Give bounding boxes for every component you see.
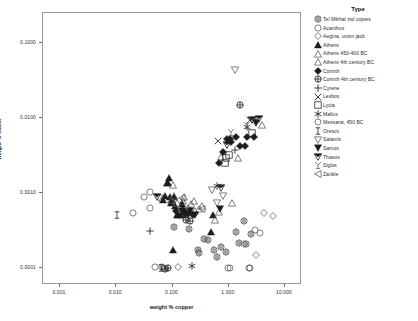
legend-marker-icon	[312, 101, 323, 110]
legend-item-label: Messana, 450 BC	[323, 118, 364, 127]
legend-item[interactable]: Acanthus	[312, 24, 416, 33]
data-point	[139, 192, 148, 201]
legend-item[interactable]: Athens 4th century BC	[312, 58, 416, 67]
legend-marker-icon	[312, 24, 323, 33]
data-point	[242, 121, 251, 130]
data-point	[217, 183, 226, 192]
legend-item[interactable]: Zankle	[312, 170, 416, 179]
data-point	[228, 199, 237, 208]
data-point	[213, 136, 222, 145]
legend-marker-icon	[312, 118, 323, 127]
data-point	[169, 195, 178, 204]
data-point	[254, 114, 263, 123]
y-tick-label: 0.0100	[10, 114, 36, 120]
data-point	[153, 193, 162, 202]
x-tick-label: 0.001	[52, 289, 65, 295]
legend-marker-icon	[312, 67, 323, 76]
y-tick-label: 0.0010	[10, 189, 36, 195]
legend-item-label: Zankle	[323, 170, 338, 179]
data-point	[251, 251, 260, 260]
legend-marker-icon	[312, 84, 323, 93]
data-point	[188, 261, 197, 270]
legend-item[interactable]: Salamis	[312, 135, 416, 144]
data-point	[168, 246, 177, 255]
data-point	[227, 127, 236, 136]
legend-item-label: Acanthus	[323, 24, 344, 33]
data-point	[221, 247, 230, 256]
x-tick-mark	[172, 284, 173, 287]
data-point	[231, 66, 240, 75]
legend-item[interactable]: Siglos	[312, 161, 416, 170]
data-point	[220, 159, 229, 168]
data-point	[146, 204, 155, 213]
y-tick-label: 0.1000	[10, 39, 36, 45]
legend-item-label: Samos	[323, 144, 339, 153]
legend-item[interactable]: Mallus	[312, 110, 416, 119]
legend-item-label: Athens 450-400 BC	[323, 49, 368, 58]
y-axis-label: weight % nickel	[0, 119, 2, 160]
legend-item-label: Mallus	[323, 110, 338, 119]
legend-item[interactable]: Aegina, union jack	[312, 32, 416, 41]
data-point	[236, 100, 245, 109]
data-point	[169, 223, 178, 232]
y-tick-mark	[39, 117, 42, 118]
legend-marker-icon	[312, 92, 323, 101]
legend-item[interactable]: Lesbos	[312, 92, 416, 101]
legend-item[interactable]: Athens	[312, 41, 416, 50]
legend-marker-icon	[312, 135, 323, 144]
x-tick-mark	[284, 284, 285, 287]
data-point	[225, 264, 234, 273]
data-point	[233, 154, 242, 163]
legend-marker-icon	[312, 32, 323, 41]
legend-item[interactable]: Orescii	[312, 127, 416, 136]
legend-item[interactable]: Messana, 450 BC	[312, 118, 416, 127]
y-tick-mark	[39, 192, 42, 193]
data-point	[156, 264, 165, 273]
legend-marker-icon	[312, 144, 323, 153]
legend-marker-icon	[312, 161, 323, 170]
data-point	[185, 225, 194, 234]
legend-item-label: Athens 4th century BC	[323, 58, 374, 67]
legend-marker-icon	[312, 127, 323, 136]
legend-item[interactable]: Corinth 4th century BC	[312, 75, 416, 84]
data-point	[256, 229, 265, 238]
legend-item-label: Orescii	[323, 127, 339, 136]
legend-item-label: Lesbos	[323, 92, 339, 101]
plot-area	[42, 12, 301, 284]
legend-item-label: Tel Mikhal zwl copies	[323, 15, 371, 24]
legend-item-label: Thasos	[323, 153, 340, 162]
data-point	[211, 215, 220, 224]
legend-item-label: Salamis	[323, 135, 341, 144]
legend-marker-icon	[312, 58, 323, 67]
legend-marker-icon	[312, 75, 323, 84]
legend-item[interactable]: Samos	[312, 144, 416, 153]
legend-item[interactable]: Athens 450-400 BC	[312, 49, 416, 58]
legend-item[interactable]: Corinth	[312, 67, 416, 76]
x-tick-mark	[59, 284, 60, 287]
x-axis-label: weight % copper	[42, 304, 301, 310]
y-tick-mark	[39, 267, 42, 268]
data-point	[240, 240, 249, 249]
data-point	[195, 248, 204, 257]
legend-marker-icon	[312, 49, 323, 58]
legend-item-label: Lycia	[323, 101, 335, 110]
legend-item[interactable]: Thasos	[312, 153, 416, 162]
legend-marker-icon	[312, 170, 323, 179]
legend-marker-icon	[312, 110, 323, 119]
data-point	[197, 204, 206, 213]
data-point	[232, 228, 241, 237]
data-point	[240, 217, 249, 226]
legend-item-label: Corinth	[323, 67, 339, 76]
legend-title: Type	[312, 6, 404, 12]
data-point	[216, 205, 225, 214]
legend-item[interactable]: Tel Mikhal zwl copies	[312, 15, 416, 24]
x-tick-mark	[228, 284, 229, 287]
data-point	[129, 208, 138, 217]
legend-marker-icon	[312, 153, 323, 162]
legend-items: Tel Mikhal zwl copiesAcanthusAegina, uni…	[312, 15, 416, 178]
y-tick-mark	[39, 42, 42, 43]
legend-item[interactable]: Lycia	[312, 101, 416, 110]
data-point	[207, 228, 216, 237]
legend-marker-icon	[312, 15, 323, 24]
legend-item[interactable]: Cyrene	[312, 84, 416, 93]
